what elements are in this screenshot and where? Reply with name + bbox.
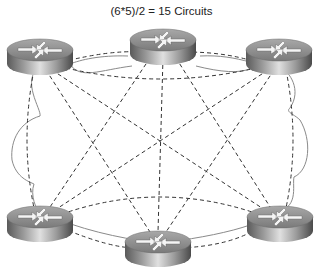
router-top-center: [130, 29, 196, 65]
router-bottom-left: [7, 206, 73, 242]
router-bottom-right: [247, 206, 313, 242]
router-bottom-center: [125, 231, 191, 267]
router-top-right: [246, 39, 312, 75]
router-top-left: [7, 39, 73, 75]
full-mesh-diagram: [0, 0, 323, 270]
